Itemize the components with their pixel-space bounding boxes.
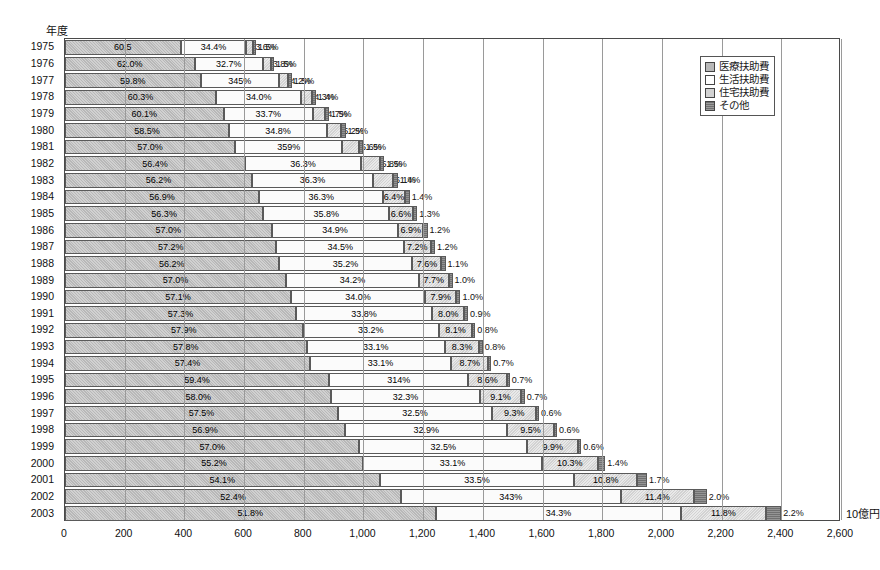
bar-segment[interactable]: 59.4%	[65, 373, 329, 388]
bar-segment[interactable]: 11.8%	[681, 506, 765, 521]
bar-segment[interactable]: 10.3%	[542, 456, 598, 471]
bar-segment[interactable]: 57.3%	[65, 306, 296, 321]
legend-item[interactable]: 医療扶助費	[705, 60, 769, 73]
bar-segment[interactable]: 34.9%	[272, 223, 399, 238]
bar-segment[interactable]: 36.3%	[259, 190, 383, 205]
stacked-bar[interactable]: 57.0%359%5.6%1.5%	[65, 140, 363, 155]
bar-segment[interactable]: 314%	[329, 373, 469, 388]
bar-segment[interactable]: 57.0%	[65, 273, 286, 288]
bar-segment[interactable]: 0.7%	[521, 389, 524, 404]
bar-segment[interactable]: 59.8%	[65, 73, 201, 88]
bar-segment[interactable]: 9.5%	[507, 423, 554, 438]
stacked-bar[interactable]: 56.9%36.3%6.4%1.4%	[65, 190, 410, 205]
bar-segment[interactable]: 34.3%	[436, 506, 681, 521]
bar-segment[interactable]: 2.2%	[766, 506, 782, 521]
bar-segment[interactable]: 57.5%	[65, 406, 338, 421]
stacked-bar[interactable]: 57.0%34.2%7.7%1.0%	[65, 273, 453, 288]
bar-segment[interactable]: 57.0%	[65, 140, 235, 155]
bar-segment[interactable]: 7.9%	[425, 290, 456, 305]
stacked-bar[interactable]: 59.8%345%4.2%1.5%	[65, 73, 292, 88]
bar-segment[interactable]: 0.7%	[488, 356, 491, 371]
bar-segment[interactable]: 52.4%	[65, 489, 401, 504]
bar-segment[interactable]: 345%	[201, 73, 279, 88]
bar-segment[interactable]: 5.2%	[327, 123, 342, 138]
bar-segment[interactable]: 0.8%	[472, 323, 475, 338]
bar-segment[interactable]: 35.8%	[263, 206, 389, 221]
bar-segment[interactable]: 60.5	[65, 40, 181, 55]
stacked-bar[interactable]: 59.4%314%8.6%0.7%	[65, 373, 510, 388]
bar-segment[interactable]: 1.5%	[288, 73, 291, 88]
stacked-bar[interactable]: 54.1%33.5%10.8%1.7%	[65, 473, 647, 488]
bar-segment[interactable]: 6.6%	[389, 206, 412, 221]
bar-segment[interactable]: 1.5%	[271, 57, 274, 72]
stacked-bar[interactable]: 55.2%33.1%10.3%1.4%	[65, 456, 605, 471]
stacked-bar[interactable]: 58.0%32.3%9.1%0.7%	[65, 389, 525, 404]
bar-segment[interactable]: 62.0%	[65, 57, 195, 72]
bar-segment[interactable]: 11.4%	[621, 489, 694, 504]
bar-segment[interactable]: 57.0%	[65, 439, 359, 454]
legend-item[interactable]: 住宅扶助費	[705, 86, 769, 99]
bar-segment[interactable]: 32.5%	[338, 406, 492, 421]
stacked-bar[interactable]: 62.0%32.7%3.8%1.5%	[65, 57, 274, 72]
bar-segment[interactable]: 1.4%	[312, 90, 316, 105]
stacked-bar[interactable]: 57.0%32.5%9.9%0.6%	[65, 439, 581, 454]
bar-segment[interactable]: 0.9%	[464, 306, 468, 321]
bar-segment[interactable]: 8.6%	[468, 373, 506, 388]
bar-segment[interactable]: 57.8%	[65, 340, 307, 355]
bar-segment[interactable]: 55.2%	[65, 456, 363, 471]
bar-segment[interactable]: 1.0%	[449, 273, 453, 288]
bar-segment[interactable]: 1.4%	[393, 173, 398, 188]
bar-segment[interactable]: 60.1%	[65, 107, 224, 122]
bar-segment[interactable]: 34.2%	[286, 273, 419, 288]
bar-segment[interactable]: 34.5%	[276, 240, 404, 255]
bar-segment[interactable]: 33.7%	[224, 107, 313, 122]
bar-segment[interactable]: 8.0%	[432, 306, 464, 321]
bar-segment[interactable]: 1.5%	[253, 40, 256, 55]
bar-segment[interactable]: 1.7%	[637, 473, 647, 488]
bar-segment[interactable]: 0.7%	[507, 373, 510, 388]
bar-segment[interactable]: 33.1%	[310, 356, 451, 371]
bar-segment[interactable]: 60.3%	[65, 90, 216, 105]
bar-segment[interactable]: 6.1%	[373, 173, 393, 188]
bar-segment[interactable]: 1.5%	[341, 123, 345, 138]
bar-segment[interactable]: 58.0%	[65, 389, 331, 404]
stacked-bar[interactable]: 52.4%343%11.4%2.0%	[65, 489, 707, 504]
stacked-bar[interactable]: 57.4%33.1%8.7%0.7%	[65, 356, 492, 371]
stacked-bar[interactable]: 57.8%33.1%8.3%0.8%	[65, 340, 483, 355]
bar-segment[interactable]: 56.9%	[65, 190, 259, 205]
bar-segment[interactable]: 57.1%	[65, 290, 291, 305]
bar-segment[interactable]: 56.2%	[65, 173, 252, 188]
stacked-bar[interactable]: 57.5%32.5%9.3%0.6%	[65, 406, 540, 421]
bar-segment[interactable]: 56.2%	[65, 256, 279, 271]
bar-segment[interactable]: 9.1%	[480, 389, 522, 404]
stacked-bar[interactable]: 60.1%33.7%4.7%1.5%	[65, 107, 329, 122]
bar-segment[interactable]: 36.3%	[252, 173, 373, 188]
bar-segment[interactable]: 0.6%	[554, 423, 557, 438]
legend-item[interactable]: その他	[705, 99, 769, 112]
bar-segment[interactable]: 35.2%	[279, 256, 413, 271]
bar-segment[interactable]: 32.5%	[359, 439, 527, 454]
bar-segment[interactable]: 56.3%	[65, 206, 263, 221]
bar-segment[interactable]: 51.8%	[65, 506, 436, 521]
bar-segment[interactable]: 3.6%	[246, 40, 253, 55]
bar-segment[interactable]: 32.3%	[331, 389, 479, 404]
bar-segment[interactable]: 33.5%	[380, 473, 575, 488]
bar-segment[interactable]: 7.6%	[412, 256, 441, 271]
bar-segment[interactable]: 0.6%	[536, 406, 539, 421]
bar-segment[interactable]: 9.9%	[527, 439, 578, 454]
legend-item[interactable]: 生活扶助費	[705, 73, 769, 86]
bar-segment[interactable]: 58.5%	[65, 123, 229, 138]
bar-segment[interactable]: 9.3%	[492, 406, 536, 421]
bar-segment[interactable]: 34.4%	[181, 40, 247, 55]
bar-segment[interactable]: 1.0%	[456, 290, 460, 305]
stacked-bar[interactable]: 56.4%36.3%5.8%1.5%	[65, 156, 384, 171]
bar-segment[interactable]: 6.4%	[383, 190, 405, 205]
bar-segment[interactable]: 34.0%	[216, 90, 301, 105]
stacked-bar[interactable]: 56.2%35.2%7.6%1.1%	[65, 256, 446, 271]
bar-segment[interactable]: 32.7%	[195, 57, 263, 72]
bar-segment[interactable]: 34.0%	[291, 290, 425, 305]
bar-segment[interactable]: 4.2%	[279, 73, 289, 88]
bar-segment[interactable]: 33.2%	[303, 323, 439, 338]
bar-segment[interactable]: 33.1%	[363, 456, 542, 471]
stacked-bar[interactable]: 57.2%34.5%7.2%1.2%	[65, 240, 435, 255]
